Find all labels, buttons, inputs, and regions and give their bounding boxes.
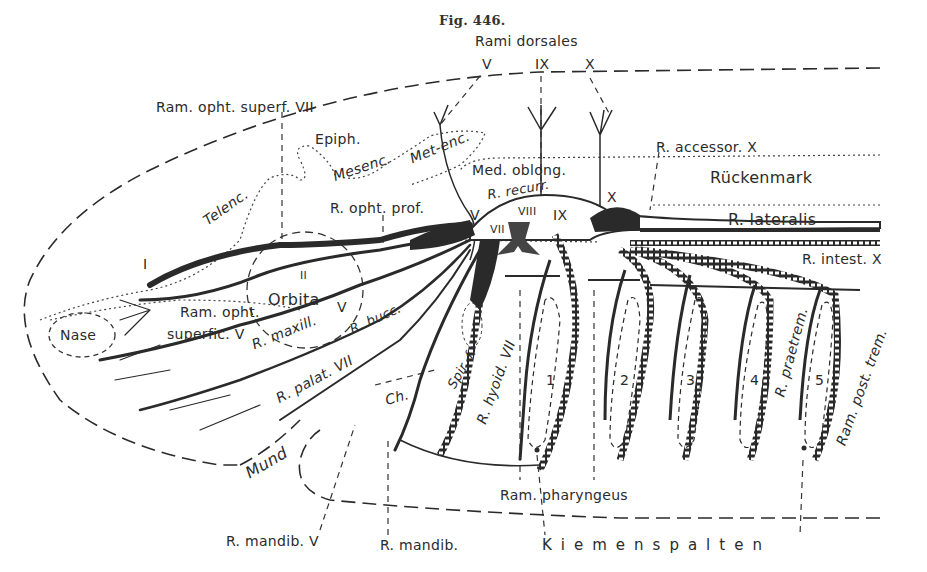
label-nerve-vii: VII (490, 224, 505, 235)
gill-arch-2 (605, 250, 651, 460)
label-r-lateralis: R. lateralis (728, 212, 816, 228)
nerve-diagram (0, 0, 927, 572)
label-kiemenspalten: Kiemenspalten (542, 538, 771, 553)
label-r-intest-x: R. intest. X (802, 252, 882, 266)
label-nase: Nase (60, 328, 96, 342)
label-gill-4: 4 (750, 373, 759, 387)
gill-arch-1 (520, 235, 576, 470)
label-gill-5: 5 (815, 373, 824, 387)
label-nerve-ix: IX (553, 208, 567, 222)
label-nerve-ii: II (300, 270, 307, 281)
ram-pharyngeus-curve (400, 440, 540, 466)
label-nerve-viii: VIII (518, 206, 536, 217)
label-ram-pharyngeus: Ram. pharyngeus (500, 488, 628, 502)
label-rami-dorsales: Rami dorsales (475, 34, 578, 48)
label-gill-3: 3 (686, 373, 695, 387)
label-rd-ix: IX (535, 57, 549, 71)
label-r-mandib: R. mandib. (380, 538, 458, 552)
label-gill-2: 2 (620, 373, 629, 387)
label-nerve-x: X (607, 190, 617, 204)
label-epiph: Epiph. (315, 132, 361, 146)
gill-arch-5 (640, 250, 838, 460)
label-ram-opht-superfic-v-1: Ram. opht. (180, 305, 260, 319)
r-intest-line (630, 240, 880, 246)
label-med-oblong: Med. oblong. (472, 163, 566, 177)
label-r-accessor-x: R. accessor. X (656, 140, 757, 154)
label-rd-x: X (585, 57, 595, 71)
label-gill-1: 1 (546, 373, 555, 387)
gill-arch-3 (630, 250, 706, 460)
label-ram-opht-superf-vii: Ram. opht. superf. VII (156, 100, 314, 114)
label-orbita-v: V (337, 300, 347, 314)
label-rueckenmark: Rückenmark (710, 170, 812, 186)
figure-caption: Fig. 446. (439, 14, 506, 27)
label-ram-opht-superfic-v-2: superfic. V (167, 327, 245, 341)
label-nerve-v: V (470, 208, 480, 222)
label-r-mandib-v: R. mandib. V (226, 534, 319, 548)
facial-dark (470, 240, 500, 310)
label-r-opht-prof: R. opht. prof. (330, 201, 424, 215)
label-orbita: Orbita (268, 292, 320, 308)
label-rd-v: V (482, 57, 492, 71)
label-nerve-i: I (143, 257, 147, 271)
